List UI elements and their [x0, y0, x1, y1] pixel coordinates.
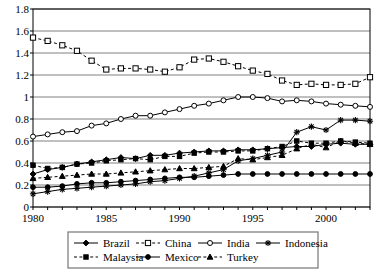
data-point	[324, 101, 329, 106]
x-tick-label: 1995	[242, 212, 265, 224]
data-point	[60, 130, 65, 135]
legend-label: Turkey	[227, 251, 259, 263]
data-point	[133, 66, 138, 71]
data-point	[338, 82, 343, 87]
data-point	[104, 180, 109, 185]
data-point	[221, 59, 226, 64]
data-point	[309, 172, 314, 177]
data-point	[294, 82, 299, 87]
legend-label: Indonesia	[285, 237, 328, 249]
data-point	[148, 113, 153, 118]
data-point	[148, 177, 153, 182]
data-point	[30, 35, 35, 40]
data-point	[338, 172, 343, 177]
data-point	[368, 104, 373, 109]
data-point	[31, 185, 36, 190]
data-point	[206, 101, 211, 106]
data-point	[119, 158, 123, 162]
data-point	[265, 71, 270, 76]
data-point	[294, 98, 299, 103]
data-point	[207, 150, 211, 154]
data-point	[192, 103, 197, 108]
data-point	[236, 64, 241, 69]
x-tick-label: 2000	[315, 212, 338, 224]
data-point	[221, 173, 226, 178]
x-tick-label: 1985	[95, 212, 118, 224]
data-point	[148, 67, 153, 72]
data-point	[250, 172, 255, 177]
chart-legend: BrazilChinaIndiaIndonesiaMalaysiaMexicoT…	[68, 232, 328, 268]
data-point	[162, 110, 167, 115]
data-point	[89, 161, 93, 165]
data-point	[294, 172, 299, 177]
data-point	[353, 81, 358, 86]
data-point	[251, 149, 255, 153]
x-tick-label: 1980	[22, 212, 45, 224]
data-point	[84, 255, 88, 259]
data-point	[60, 184, 65, 189]
data-point	[119, 179, 124, 184]
data-point	[265, 147, 269, 151]
data-point	[74, 129, 79, 134]
data-point	[177, 65, 182, 70]
data-point	[309, 81, 314, 86]
data-point	[104, 67, 109, 72]
data-point	[60, 43, 65, 48]
data-point	[309, 99, 314, 104]
data-point	[236, 95, 241, 100]
data-point	[146, 255, 151, 260]
y-tick-label: 0.8	[15, 113, 29, 125]
legend-label: Mexico	[165, 251, 199, 263]
y-tick-label: 0.6	[15, 135, 29, 147]
line-chart: 00.20.40.60.811.21.41.61.8 1980198519901…	[0, 0, 384, 275]
data-point	[353, 172, 358, 177]
data-point	[60, 165, 64, 169]
y-tick-label: 0.2	[15, 179, 29, 191]
data-point	[280, 144, 284, 148]
data-point	[89, 123, 94, 128]
data-point	[133, 113, 138, 118]
data-point	[75, 162, 79, 166]
data-point	[45, 166, 49, 170]
data-point	[162, 69, 167, 74]
data-point	[236, 172, 241, 177]
data-point	[324, 172, 329, 177]
y-tick-label: 1.2	[15, 69, 29, 81]
data-point	[177, 107, 182, 112]
data-point	[145, 240, 150, 245]
data-point	[148, 158, 152, 162]
data-point	[221, 98, 226, 103]
data-point	[265, 172, 270, 177]
data-point	[45, 38, 50, 43]
data-point	[367, 75, 372, 80]
data-point	[206, 174, 211, 179]
data-point	[177, 175, 182, 180]
data-point	[45, 185, 50, 190]
data-point	[31, 134, 36, 139]
data-point	[280, 172, 285, 177]
data-point	[177, 154, 181, 158]
data-point	[221, 150, 225, 154]
data-point	[133, 156, 137, 160]
data-point	[45, 132, 50, 137]
data-point	[89, 180, 94, 185]
data-point	[280, 99, 285, 104]
data-point	[162, 176, 167, 181]
y-tick-label: 1.6	[15, 25, 29, 37]
legend-label: India	[227, 237, 250, 249]
data-point	[338, 102, 343, 107]
chart-canvas: 00.20.40.60.811.21.41.61.8 1980198519901…	[0, 0, 384, 275]
data-point	[353, 103, 358, 108]
data-point	[323, 82, 328, 87]
data-point	[265, 96, 270, 101]
data-point	[236, 149, 240, 153]
data-point	[206, 56, 211, 61]
data-point	[133, 178, 138, 183]
data-point	[250, 95, 255, 100]
data-point	[368, 172, 373, 177]
legend-label: China	[165, 237, 191, 249]
data-point	[75, 182, 80, 187]
y-tick-label: 0.4	[15, 157, 29, 169]
legend-label: Brazil	[103, 237, 130, 249]
data-point	[118, 66, 123, 71]
